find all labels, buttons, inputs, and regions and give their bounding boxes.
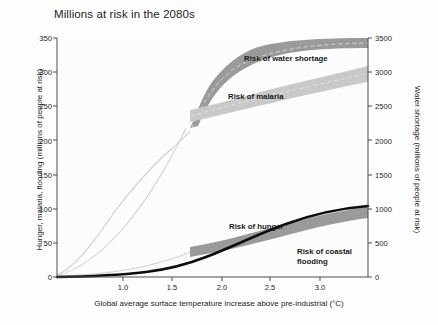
x-axis-ticks — [123, 277, 320, 281]
label-coastal-flooding-line2: flooding — [297, 257, 328, 267]
label-hunger: Risk of hunger — [229, 222, 284, 232]
plot-canvas — [0, 0, 438, 325]
label-coastal-flooding-line1: Risk of coastal — [297, 247, 352, 257]
label-malaria: Risk of malaria — [228, 92, 283, 102]
y-axis-left-ticks — [53, 38, 57, 277]
y-axis-right-ticks — [368, 38, 372, 277]
plot-background — [57, 38, 368, 277]
label-water-shortage: Risk of water shortage — [244, 54, 328, 64]
chart-figure: Millions at risk in the 2080s Hunger, ma… — [0, 0, 438, 325]
